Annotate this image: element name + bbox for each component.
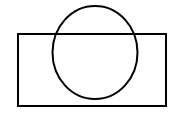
geometry-figure: Circle overlapping rectangle: [0, 0, 178, 118]
figure-canvas: Circle overlapping rectangle: [0, 0, 178, 118]
circle-shape: [53, 6, 138, 99]
rectangle-shape: [18, 34, 166, 106]
